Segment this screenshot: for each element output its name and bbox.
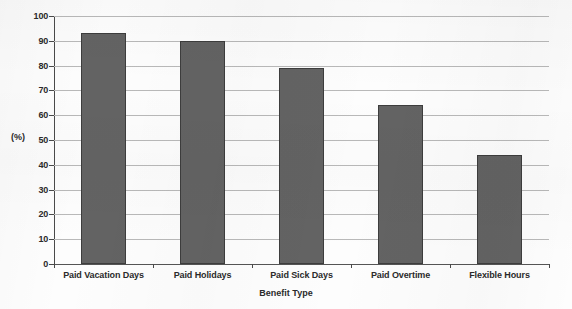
y-tick-mark bbox=[49, 90, 54, 91]
gridline bbox=[54, 66, 549, 67]
y-tick-label: 0 bbox=[43, 259, 48, 269]
bar bbox=[81, 33, 126, 264]
bar-chart: 0102030405060708090100 (%) Paid Vacation… bbox=[0, 0, 572, 309]
y-tick-mark bbox=[49, 16, 54, 17]
y-tick-label: 70 bbox=[38, 85, 48, 95]
bar bbox=[477, 155, 522, 264]
x-tick-mark bbox=[549, 264, 550, 268]
y-tick-label: 100 bbox=[34, 11, 48, 21]
y-tick-mark bbox=[49, 115, 54, 116]
x-tick-mark bbox=[153, 264, 154, 268]
y-tick-label: 90 bbox=[38, 36, 48, 46]
gridline bbox=[54, 264, 549, 265]
category-label: Paid Sick Days bbox=[270, 270, 333, 280]
y-tick-label: 80 bbox=[38, 61, 48, 71]
plot-area bbox=[54, 16, 549, 264]
bar bbox=[279, 68, 324, 264]
category-label: Flexible Hours bbox=[469, 270, 530, 280]
y-axis-title: (%) bbox=[11, 132, 25, 142]
bar bbox=[378, 105, 423, 264]
y-tick-label: 50 bbox=[38, 135, 48, 145]
y-tick-label: 20 bbox=[38, 209, 48, 219]
category-label: Paid Overtime bbox=[371, 270, 430, 280]
y-tick-label: 10 bbox=[38, 234, 48, 244]
x-tick-mark bbox=[252, 264, 253, 268]
y-tick-mark bbox=[49, 41, 54, 42]
category-label: Paid Holidays bbox=[174, 270, 232, 280]
y-tick-label: 30 bbox=[38, 185, 48, 195]
y-tick-label: 40 bbox=[38, 160, 48, 170]
category-label: Paid Vacation Days bbox=[63, 270, 144, 280]
x-tick-mark bbox=[351, 264, 352, 268]
y-tick-mark bbox=[49, 140, 54, 141]
y-tick-mark bbox=[49, 214, 54, 215]
gridline bbox=[54, 16, 549, 17]
y-tick-mark bbox=[49, 66, 54, 67]
gridline bbox=[54, 41, 549, 42]
x-tick-mark bbox=[54, 264, 55, 268]
y-tick-mark bbox=[49, 239, 54, 240]
x-axis-title: Benefit Type bbox=[259, 288, 312, 298]
y-tick-mark bbox=[49, 190, 54, 191]
bar bbox=[180, 41, 225, 264]
x-tick-mark bbox=[450, 264, 451, 268]
y-tick-label: 60 bbox=[38, 110, 48, 120]
y-tick-mark bbox=[49, 165, 54, 166]
